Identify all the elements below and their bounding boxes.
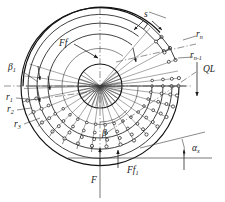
label-r3: r3 xyxy=(14,119,21,130)
force-arrow-Ff xyxy=(74,44,98,58)
label-beta1: β1 xyxy=(7,62,16,73)
label-Ff1: Ff1 xyxy=(126,165,139,176)
label-Ff: Ff xyxy=(58,38,69,48)
label-r1: r1 xyxy=(6,92,13,103)
oblique-centerline-3 xyxy=(30,90,104,100)
outer-cells xyxy=(144,24,176,60)
label-beta: β xyxy=(101,128,107,138)
oblique-centerline-2 xyxy=(116,44,196,62)
label-F: F xyxy=(90,175,97,185)
angle-arrow-4 xyxy=(133,48,136,62)
dimension-arrow-s-left xyxy=(134,21,143,30)
leader-beta1 xyxy=(22,71,38,82)
label-rn: rn xyxy=(196,29,203,40)
figure-canvas: s rn rn-1 QL Ff β1 r1 r2 r3 β xyxy=(0,0,225,202)
label-alpha-x: αx xyxy=(192,143,200,154)
label-r2: r2 xyxy=(7,104,14,115)
label-rn-minus-1: rn-1 xyxy=(190,50,202,61)
leader-rn xyxy=(183,36,196,40)
dimension-ext-s xyxy=(149,12,166,18)
label-s: s xyxy=(144,9,148,19)
label-QL: QL xyxy=(203,64,215,74)
spiral-mesh-diagram: s rn rn-1 QL Ff β1 r1 r2 r3 β xyxy=(0,0,225,202)
